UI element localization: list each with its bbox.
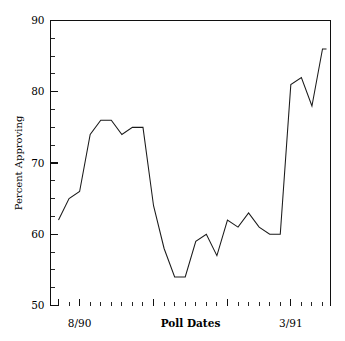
chart-background: [0, 0, 345, 341]
x-axis-title: Poll Dates: [161, 317, 221, 329]
chart-figure: 5060708090 8/90 3/91 Poll Dates Percent …: [0, 0, 345, 341]
y-tick-label: 70: [31, 157, 44, 169]
x-tick-label-right: 3/91: [279, 317, 303, 329]
x-tick-label-left: 8/90: [68, 317, 92, 329]
y-tick-label: 50: [31, 299, 44, 311]
y-axis-title: Percent Approving: [13, 115, 24, 210]
y-tick-label: 80: [31, 85, 44, 97]
y-tick-label: 90: [31, 14, 44, 26]
line-chart: 5060708090 8/90 3/91 Poll Dates Percent …: [0, 0, 345, 341]
y-tick-label: 60: [31, 228, 44, 240]
